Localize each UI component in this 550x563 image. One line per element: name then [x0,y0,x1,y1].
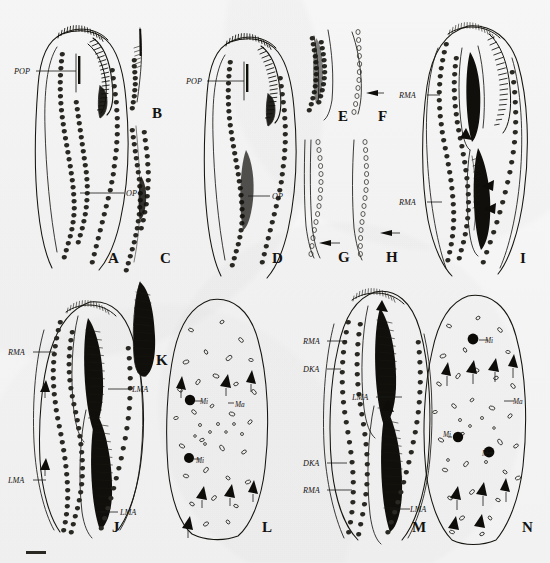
micronucleus [184,395,195,463]
caption-strip [0,545,550,563]
label-RMA-I-2: RMA [398,198,417,207]
kinety-row [58,52,77,260]
figure-canvas: POP OP A B [0,0,550,563]
label-RMA-M-2: RMA [302,486,321,495]
panel-letter-B: B [152,105,162,121]
arrow-H [380,230,392,236]
panel-letter-M: M [412,519,426,535]
label-Mi-N-1: Mi [484,336,493,345]
label-POP-A: POP [13,67,30,76]
label-LMA-J-2: LMA [7,476,25,485]
label-LMA-M-1: LMA [351,393,369,402]
kinety-row [340,320,356,535]
panel-J: RMA LMA LMA LMA J [7,301,149,539]
panel-H: H [353,140,401,266]
panel-letter-I: I [520,250,526,266]
arrow-F [366,90,378,96]
label-LMA-J-3: LMA [119,508,137,517]
panel-letter-N: N [522,519,533,535]
kinety-row [226,60,245,268]
kinety-row [74,100,90,245]
panel-L: Mi Ma Mi L [167,299,272,539]
arrowhead-M-1 [376,300,388,312]
panel-E: E [307,30,348,124]
label-LMA-M-2: LMA [409,505,427,514]
panel-letter-J: J [112,519,120,535]
label-OP-A: OP [126,189,137,198]
label-Ma-L: Ma [234,400,245,409]
panel-F: F [352,30,387,125]
figure-plate: POP OP A B [0,0,550,563]
panel-I: RMA RMA I [398,23,527,277]
arrow-G [319,240,331,246]
panel-C: C [124,126,171,272]
panel-letter-K: K [156,352,168,368]
label-DKA-M-1: DKA [302,365,320,374]
label-OP-D: OP [272,192,283,201]
label-RMA-I-1: RMA [398,91,417,100]
panel-letter-C: C [160,250,171,266]
label-Mi-L-1: Mi [199,397,208,406]
panel-B: B [130,28,162,121]
panel-G: G [304,140,350,266]
label-RMA-J: RMA [7,348,26,357]
micronucleus [453,334,495,458]
label-POP-D: POP [185,77,202,86]
panel-D: POP OP D [185,34,296,279]
label-Mi-N-3: Mi [481,449,490,458]
label-Mi-N-2: Mi [442,430,451,439]
panel-letter-G: G [338,249,350,265]
label-Ma-N: Ma [512,397,523,406]
label-DKA-M-2: DKA [302,459,320,468]
arrow-J-2 [40,458,50,470]
panel-M: RMA DKA LMA DKA RMA LMA M [302,289,432,545]
label-RMA-M-1: RMA [302,337,321,346]
panel-N: Mi Ma Mi Mi N [424,295,533,544]
panel-K: K [133,282,168,376]
panel-letter-F: F [378,108,387,124]
label-LMA-J-1: LMA [131,385,149,394]
panel-letter-D: D [272,250,283,266]
label-Mi-L-2: Mi [195,456,204,465]
panel-letter-H: H [386,249,398,265]
panel-letter-A: A [108,250,119,266]
kinety-row [358,140,368,257]
panel-letter-E: E [338,108,348,124]
scale-bar [26,551,46,554]
panel-A: POP OP A [13,26,137,271]
panel-letter-L: L [262,519,272,535]
arrow-J-1 [40,380,50,392]
